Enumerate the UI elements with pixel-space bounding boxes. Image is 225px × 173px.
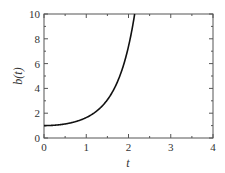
x-tick-label: 4: [210, 141, 216, 153]
y-tick-label: 10: [29, 8, 41, 20]
y-tick-label: 4: [35, 82, 41, 94]
x-tick-label: 2: [126, 141, 132, 153]
x-axis-label: t: [126, 156, 130, 170]
chart: 012340246810 t b(t): [0, 0, 225, 173]
y-axis-label: b(t): [11, 67, 25, 84]
y-tick-label: 6: [35, 58, 41, 70]
axis-ticks: [44, 14, 213, 138]
y-tick-label: 8: [35, 33, 41, 45]
y-tick-label: 0: [35, 132, 41, 144]
plot-frame: [44, 14, 213, 138]
x-tick-label: 1: [84, 141, 90, 153]
data-line: [44, 14, 135, 126]
plot-border: [44, 14, 213, 138]
x-tick-label: 0: [41, 141, 47, 153]
tick-labels: 012340246810: [29, 8, 216, 153]
y-tick-label: 2: [35, 107, 41, 119]
x-tick-label: 3: [168, 141, 174, 153]
